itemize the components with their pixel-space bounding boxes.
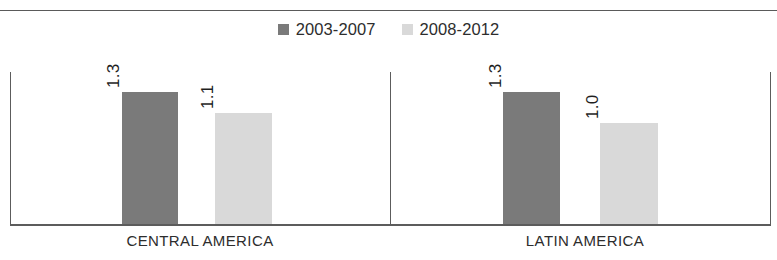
bar-value-label: 1.0	[583, 94, 621, 119]
axis-line-baseline	[10, 224, 771, 226]
category-label-central-america: CENTRAL AMERICA	[50, 232, 350, 249]
legend-entry-2008-2012: 2008-2012	[402, 20, 500, 39]
top-divider-rule	[0, 10, 777, 11]
category-label-latin-america: LATIN AMERICA	[435, 232, 735, 249]
legend-entry-2003-2007: 2003-2007	[278, 20, 376, 39]
bar-latin-america-2003-2007	[503, 92, 560, 224]
axis-line-left	[10, 72, 11, 225]
bar-value-label: 1.3	[486, 63, 524, 88]
bar-central-america-2008-2012	[215, 113, 272, 224]
bar-central-america-2003-2007	[122, 92, 178, 224]
legend-label-2008-2012: 2008-2012	[420, 20, 500, 39]
legend-swatch-light-icon	[402, 24, 413, 35]
chart-legend: 2003-2007 2008-2012	[0, 18, 777, 40]
axis-group-divider	[390, 72, 391, 225]
bar-value-label: 1.1	[198, 84, 236, 109]
legend-label-2003-2007: 2003-2007	[296, 20, 376, 39]
grouped-bar-chart: 2003-2007 2008-2012 1.31.1CENTRAL AMERIC…	[0, 0, 777, 260]
legend-swatch-dark-icon	[278, 24, 289, 35]
bar-latin-america-2008-2012	[600, 123, 658, 224]
axis-line-right	[770, 72, 771, 225]
bar-value-label: 1.3	[104, 63, 142, 88]
plot-area	[10, 72, 771, 225]
